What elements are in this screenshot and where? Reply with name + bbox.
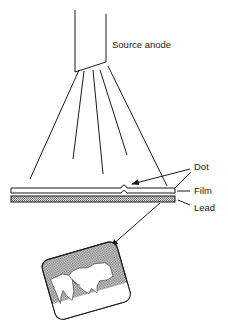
- xray-diagram: Source anode Dot Film Lead: [0, 0, 228, 327]
- film: [11, 185, 175, 193]
- result-arrow: [111, 203, 160, 246]
- lead-layer: [11, 196, 175, 202]
- source-anode: [75, 10, 106, 72]
- beam-line: [108, 66, 167, 186]
- lead-label: Lead: [194, 202, 215, 213]
- source-anode-label: Source anode: [112, 39, 171, 50]
- xray-image: [40, 240, 132, 321]
- beam-line: [30, 70, 79, 179]
- lead-leader-line: [178, 200, 190, 205]
- film-label: Film: [194, 185, 212, 196]
- xray-beams: [30, 66, 167, 186]
- beam-line: [73, 71, 84, 159]
- beam-line: [93, 70, 103, 174]
- beam-line: [100, 70, 127, 155]
- dot-label: Dot: [194, 161, 209, 172]
- dot-leader-line: [175, 172, 191, 188]
